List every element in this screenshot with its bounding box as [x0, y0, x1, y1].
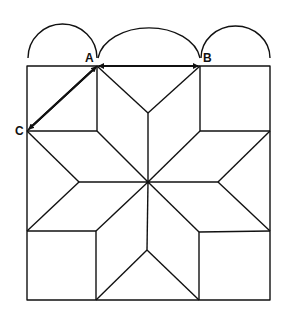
quilt-star-diagram: A B C — [0, 0, 285, 319]
center-point — [146, 180, 149, 183]
label-b: B — [203, 52, 212, 64]
label-a: A — [85, 52, 94, 64]
diagram-drawing — [0, 0, 285, 319]
label-c: C — [15, 125, 24, 137]
arc-middle — [98, 28, 200, 58]
